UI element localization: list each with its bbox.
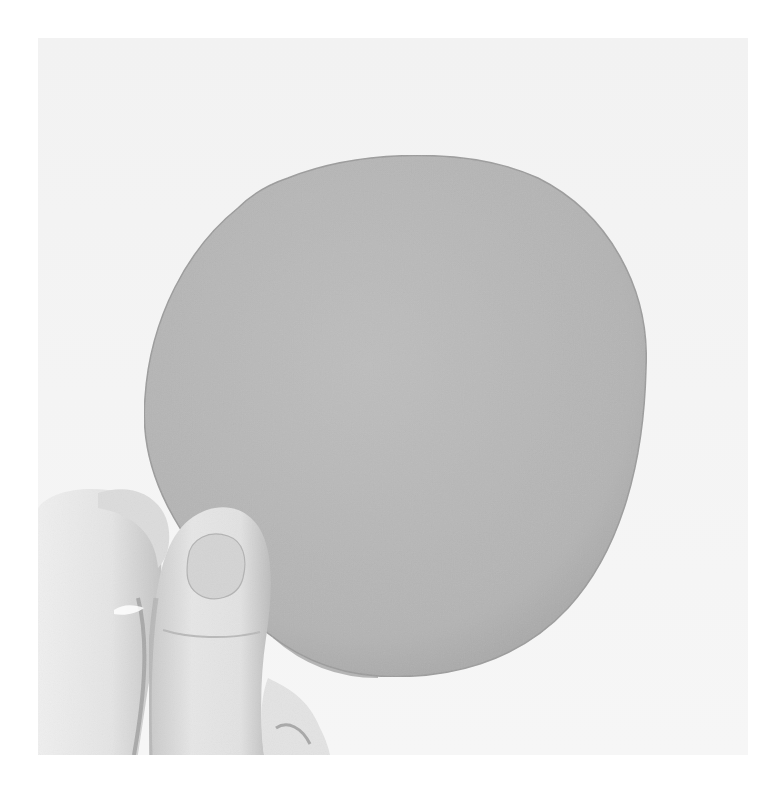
page-canvas: Black-and-white photo of a hand holding … <box>0 0 780 803</box>
photo: Black-and-white photo of a hand holding … <box>38 38 748 755</box>
photo-illustration <box>38 38 748 755</box>
